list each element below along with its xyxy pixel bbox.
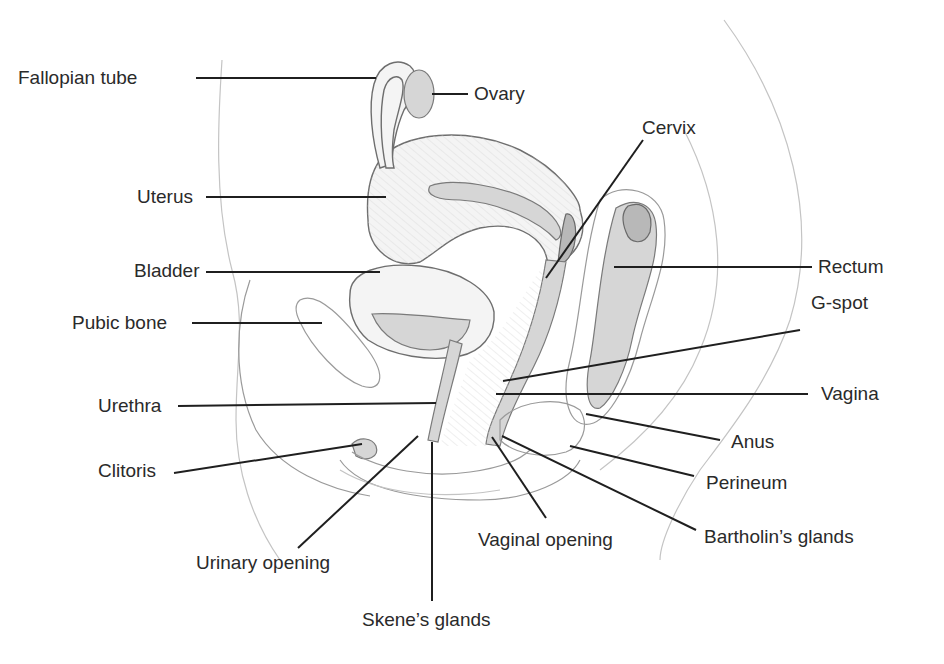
label-g-spot: G-spot <box>811 293 868 312</box>
leader-line-vaginal-opening <box>492 437 546 518</box>
bladder-shape <box>350 265 495 358</box>
label-urinary-opening: Urinary opening <box>196 553 330 572</box>
label-rectum: Rectum <box>818 257 883 276</box>
label-ovary: Ovary <box>474 84 525 103</box>
label-vaginal-opening: Vaginal opening <box>478 530 613 549</box>
ovary-shape <box>404 70 434 118</box>
leader-line-g-spot <box>503 330 800 381</box>
label-uterus: Uterus <box>137 187 193 206</box>
label-perineum: Perineum <box>706 473 787 492</box>
vulva-shape <box>340 439 530 495</box>
label-bartholins-glands: Bartholin’s glands <box>704 527 854 546</box>
leader-line-perineum <box>570 446 694 476</box>
label-pubic-bone: Pubic bone <box>72 313 167 332</box>
label-clitoris: Clitoris <box>98 461 156 480</box>
label-anus: Anus <box>731 432 774 451</box>
leader-line-clitoris <box>174 444 362 473</box>
label-vagina: Vagina <box>821 384 879 403</box>
label-urethra: Urethra <box>98 396 161 415</box>
label-fallopian-tube: Fallopian tube <box>18 68 137 87</box>
leader-line-anus <box>586 414 720 440</box>
uterus-shape <box>368 135 583 268</box>
label-cervix: Cervix <box>642 118 696 137</box>
leader-line-urethra <box>178 403 436 406</box>
label-bladder: Bladder <box>134 261 200 280</box>
leader-line-bartholins-glands <box>502 436 696 530</box>
label-skenes-glands: Skene’s glands <box>362 610 491 629</box>
